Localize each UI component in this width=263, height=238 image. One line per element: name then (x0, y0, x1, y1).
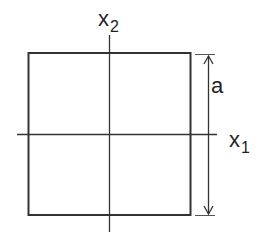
dimension-label: a (211, 73, 224, 98)
x1-label: x1 (229, 127, 250, 156)
x2-label: x2 (98, 6, 119, 35)
square-cross-section-diagram: x2 a x1 (0, 0, 263, 238)
